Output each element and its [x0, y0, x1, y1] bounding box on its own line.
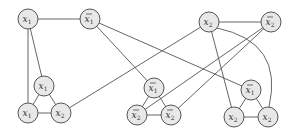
edge-v_nx1-c2_a: [90, 19, 154, 88]
node-c3_a: x1: [241, 80, 261, 100]
node-c3_c: x2: [258, 107, 278, 127]
edge-v_nx2-c2_b: [137, 22, 271, 115]
node-c2_b: x2: [127, 105, 147, 125]
node-c1_c: x2: [51, 103, 71, 123]
node-c2_c: x2: [161, 105, 181, 125]
edge-v_x2-c3_b: [209, 22, 234, 117]
node-c2_a: x1: [144, 78, 164, 98]
graph-canvas: x1x1x2x2x1x1x2x1x2x2x1x2x2: [0, 0, 297, 136]
edges-layer: [28, 19, 272, 117]
node-v_nx1: x1: [80, 9, 100, 29]
node-v_nx2: x2: [261, 12, 281, 32]
node-v_x1: x1: [18, 9, 38, 29]
node-v_x2: x2: [199, 12, 219, 32]
node-c1_a: x1: [34, 76, 54, 96]
node-c3_b: x2: [224, 107, 244, 127]
nodes-layer: x1x1x2x2x1x1x2x1x2x2x1x2x2: [18, 9, 281, 127]
node-c1_b: x1: [18, 103, 38, 123]
edge-v_nx1-c3_a: [90, 19, 251, 90]
